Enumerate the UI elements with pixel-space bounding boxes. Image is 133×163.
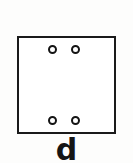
hole-bottom-right-circle bbox=[71, 116, 80, 125]
hole-top-left-circle bbox=[48, 45, 57, 54]
square-plate-outline bbox=[17, 36, 116, 134]
figure-panel: d bbox=[0, 0, 133, 163]
hole-bottom-left-circle bbox=[48, 116, 57, 125]
hole-top-right-circle bbox=[71, 45, 80, 54]
panel-label: d bbox=[0, 135, 133, 163]
